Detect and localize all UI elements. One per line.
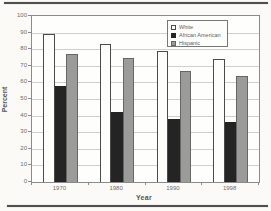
y-tick-label: 40 bbox=[11, 112, 27, 118]
scanned-page: 0102030405060708090100 1970198019901998 … bbox=[0, 0, 271, 211]
bar-hispanic bbox=[123, 58, 135, 183]
y-tick-mark bbox=[28, 32, 31, 33]
x-tick-label: 1998 bbox=[210, 185, 250, 191]
y-tick-mark bbox=[28, 98, 31, 99]
y-tick-mark bbox=[28, 115, 31, 116]
y-tick-mark bbox=[28, 164, 31, 165]
bar-white bbox=[43, 34, 55, 182]
bar-white bbox=[100, 44, 112, 182]
y-tick-mark bbox=[28, 81, 31, 82]
y-tick-label: 10 bbox=[11, 161, 27, 167]
bar-african-american bbox=[225, 122, 237, 182]
y-tick-label: 20 bbox=[11, 145, 27, 151]
x-tick-label: 1970 bbox=[39, 185, 79, 191]
gridline bbox=[32, 49, 259, 50]
x-tick-label: 1980 bbox=[96, 185, 136, 191]
legend-swatch-african-american bbox=[171, 33, 176, 38]
y-tick-label: 90 bbox=[11, 29, 27, 35]
bar-hispanic bbox=[236, 76, 248, 182]
bar-hispanic bbox=[66, 54, 78, 182]
legend-swatch-white bbox=[171, 25, 176, 30]
y-tick-label: 100 bbox=[11, 12, 27, 18]
bar-african-american bbox=[168, 119, 180, 182]
y-tick-label: 60 bbox=[11, 78, 27, 84]
x-tick-label: 1990 bbox=[153, 185, 193, 191]
bottom-rule bbox=[7, 205, 268, 207]
legend-label: White bbox=[179, 24, 193, 30]
x-tick-mark bbox=[145, 182, 146, 185]
y-tick-label: 80 bbox=[11, 45, 27, 51]
legend-item: African American bbox=[171, 31, 227, 39]
y-tick-mark bbox=[28, 131, 31, 132]
x-tick-mark bbox=[201, 182, 202, 185]
y-tick-label: 50 bbox=[11, 95, 27, 101]
x-tick-mark bbox=[88, 182, 89, 185]
bar-white bbox=[213, 59, 225, 182]
legend-item: White bbox=[171, 23, 227, 31]
y-axis-title: Percent bbox=[1, 80, 8, 120]
bar-african-american bbox=[55, 86, 67, 182]
y-tick-mark bbox=[28, 148, 31, 149]
bar-hispanic bbox=[180, 71, 192, 182]
legend-swatch-hispanic bbox=[171, 41, 176, 46]
legend-label: Hispanic bbox=[179, 40, 200, 46]
x-axis-title: Year bbox=[104, 194, 184, 201]
y-tick-label: 0 bbox=[11, 178, 27, 184]
bar-african-american bbox=[111, 112, 123, 182]
bar-white bbox=[157, 51, 169, 182]
y-tick-label: 70 bbox=[11, 62, 27, 68]
y-tick-mark bbox=[28, 48, 31, 49]
y-tick-mark bbox=[28, 15, 31, 16]
legend: WhiteAfrican AmericanHispanic bbox=[167, 20, 228, 47]
x-tick-mark bbox=[258, 182, 259, 185]
y-tick-label: 30 bbox=[11, 128, 27, 134]
x-tick-mark bbox=[31, 182, 32, 185]
y-tick-mark bbox=[28, 65, 31, 66]
top-rule bbox=[4, 2, 268, 4]
legend-item: Hispanic bbox=[171, 39, 227, 47]
legend-label: African American bbox=[179, 32, 221, 38]
